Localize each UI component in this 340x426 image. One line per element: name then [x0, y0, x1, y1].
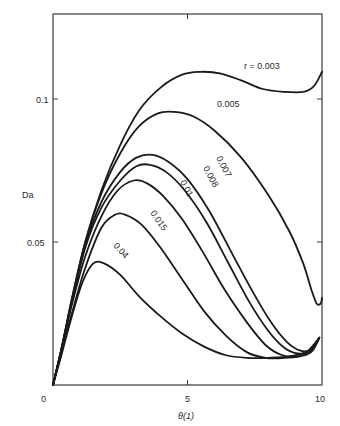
curve-label-001: 0.01: [178, 178, 195, 198]
curve-0-005: [53, 111, 322, 385]
y-axis-label: Da: [22, 190, 34, 200]
curve-label-0005: 0.005: [217, 99, 240, 109]
x-tick-label-5: 5: [185, 394, 190, 404]
curves: [53, 72, 322, 385]
chart: 0.1 0.05 Da 0 5 10 θ(1) r = 0.003 0.005 …: [0, 0, 340, 426]
curve-0-04: [53, 262, 319, 385]
curve-label-0007: 0.007: [214, 154, 233, 179]
x-tick-label-10: 10: [315, 394, 325, 404]
x-axis-label: θ(1): [178, 411, 194, 421]
x-tick-label-0: 0: [41, 394, 46, 404]
curve-label-0003: r = 0.003: [244, 61, 280, 71]
y-tick-label-01: 0.1: [36, 95, 49, 105]
curve-label-004: 0.04: [112, 241, 131, 261]
curve-label-0015: 0.015: [148, 208, 169, 232]
plot-frame: [53, 14, 322, 385]
curve-0-01: [53, 180, 319, 385]
curve-0-015: [53, 213, 319, 385]
curve-label-0008: 0.008: [201, 164, 220, 189]
y-tick-label-005: 0.05: [27, 238, 45, 248]
